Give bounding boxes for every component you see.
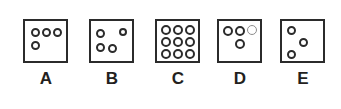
circle-dot — [31, 28, 40, 37]
circle-dot — [287, 50, 296, 59]
option-label-b: B — [81, 68, 143, 90]
circle-dot — [235, 26, 245, 36]
circle-dot — [173, 25, 183, 35]
circle-dot — [31, 41, 40, 50]
circle-dot — [185, 49, 195, 59]
circle-dot — [223, 26, 233, 36]
circle-dot — [185, 37, 195, 47]
circle-dot — [96, 43, 105, 52]
circle-dot — [235, 39, 245, 49]
circle-dot — [161, 37, 171, 47]
dot-box-d — [217, 19, 262, 63]
dot-pattern-figure: ABCDE — [0, 0, 341, 109]
dot-box-b — [89, 19, 134, 63]
option-c[interactable]: C — [147, 0, 209, 109]
dot-box-c — [155, 19, 200, 63]
option-a[interactable]: A — [15, 0, 77, 109]
option-label-c: C — [147, 68, 209, 90]
circle-dot — [108, 44, 117, 53]
circle-dot — [119, 28, 127, 36]
option-d[interactable]: D — [209, 0, 271, 109]
circle-dot — [287, 26, 296, 35]
option-label-a: A — [15, 68, 77, 90]
circle-dot — [161, 49, 171, 59]
option-label-d: D — [209, 68, 271, 90]
dot-box-a — [23, 19, 68, 63]
option-label-e: E — [272, 68, 334, 90]
circle-dot — [161, 25, 171, 35]
circle-dot — [96, 29, 105, 38]
circle-dot — [53, 28, 62, 37]
option-e[interactable]: E — [272, 0, 334, 109]
option-b[interactable]: B — [81, 0, 143, 109]
circle-dot — [185, 25, 195, 35]
circle-dot — [247, 25, 257, 35]
circle-dot — [42, 28, 51, 37]
dot-box-e — [280, 19, 325, 63]
circle-dot — [173, 37, 183, 47]
circle-dot — [299, 38, 308, 47]
circle-dot — [173, 49, 183, 59]
